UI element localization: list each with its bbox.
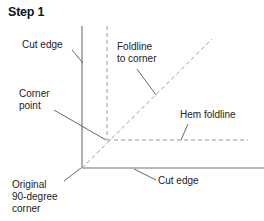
label-cut-edge-top-text: Cut edge — [22, 39, 63, 50]
label-cut-edge-top: Cut edge — [22, 39, 63, 51]
label-cut-edge-bottom-text: Cut edge — [158, 175, 199, 186]
label-foldline-to-corner-line2: to corner — [117, 53, 156, 65]
label-foldline-to-corner-line1: Foldline — [117, 41, 156, 53]
foldline-to-corner-leader — [137, 69, 156, 95]
corner-point-leader — [54, 110, 106, 140]
label-foldline-to-corner: Foldline to corner — [117, 41, 156, 65]
label-cut-edge-bottom: Cut edge — [158, 175, 199, 187]
label-original-corner-line3: corner — [12, 203, 58, 215]
cut-edge-bottom-leader — [134, 169, 156, 180]
hem-foldline-leader — [181, 124, 188, 140]
label-corner-point-line1: Corner — [19, 88, 50, 100]
label-hem-foldline-text: Hem foldline — [180, 109, 236, 120]
original-corner-leader — [64, 168, 81, 181]
label-corner-point: Corner point — [19, 88, 50, 112]
label-original-corner-line2: 90-degree — [12, 191, 58, 203]
figure-title: Step 1 — [8, 5, 44, 19]
figure-root: Step 1 Cut edge Foldline to corner Corne… — [0, 0, 264, 221]
label-original-corner-line1: Original — [12, 179, 58, 191]
label-hem-foldline: Hem foldline — [180, 109, 236, 121]
label-corner-point-line2: point — [19, 100, 50, 112]
cut-edge-top-leader — [72, 50, 83, 63]
label-original-90-degree-corner: Original 90-degree corner — [12, 179, 58, 215]
